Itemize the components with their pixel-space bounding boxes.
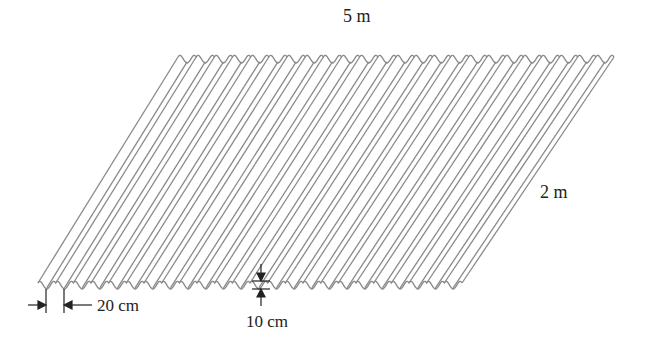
sheet-ridge-line bbox=[303, 57, 451, 283]
sheet-ridge-line bbox=[338, 57, 487, 283]
corrugated-sheet bbox=[38, 55, 614, 289]
sheet-ridge-line bbox=[65, 62, 206, 288]
sheet-ridge-line bbox=[418, 62, 569, 288]
sheet-ridge-line bbox=[427, 57, 578, 283]
sheet-ridge-line bbox=[82, 62, 223, 288]
pitch-arrow-left-head bbox=[38, 301, 46, 309]
sheet-ridge-line bbox=[312, 62, 460, 288]
sheet-ridge-line bbox=[118, 62, 260, 288]
sheet-ridge-line bbox=[232, 57, 378, 283]
sheet-ridge-line bbox=[330, 62, 478, 288]
sheet-ridge-line bbox=[383, 62, 533, 288]
sheet-ridge-line bbox=[215, 57, 360, 283]
sheet-ridge-line bbox=[285, 57, 432, 283]
sheet-ridge-line bbox=[73, 57, 214, 283]
sheet-ridge-line bbox=[224, 62, 369, 288]
sheet-ridge-line bbox=[250, 57, 396, 283]
sheet-ridge-line bbox=[171, 62, 315, 288]
sheet-ridge-line bbox=[268, 57, 415, 283]
sheet-ridge-line bbox=[374, 57, 524, 283]
sheet-ridge-line bbox=[100, 62, 242, 288]
depth-arrow-bottom-head bbox=[257, 289, 265, 297]
sheet-ridge-line bbox=[135, 62, 278, 288]
pitch-label: 20 cm bbox=[97, 296, 139, 316]
sheet-ridge-line bbox=[109, 57, 251, 283]
sheet-ridge-line bbox=[321, 57, 469, 283]
sheet-ridge-line bbox=[126, 57, 269, 283]
sheet-ridge-line bbox=[153, 62, 296, 288]
sheet-ridge-line bbox=[56, 57, 197, 283]
sheet-ridge-line bbox=[356, 57, 505, 283]
sheet-ridge-line bbox=[38, 57, 178, 283]
sheet-ridge-line bbox=[188, 62, 332, 288]
depth-label: 10 cm bbox=[246, 312, 288, 332]
sheet-top-edge bbox=[178, 55, 614, 63]
pitch-arrow-right-head bbox=[64, 301, 72, 309]
sheet-ridge-line bbox=[91, 57, 233, 283]
sheet-ridge-line bbox=[206, 62, 351, 288]
sheet-ridge-line bbox=[365, 62, 514, 288]
length-label: 5 m bbox=[343, 6, 371, 27]
sheet-ridge-line bbox=[47, 62, 187, 288]
sheet-ridge-line bbox=[436, 62, 587, 288]
slant-width-label: 2 m bbox=[540, 182, 568, 203]
sheet-ridge-line bbox=[347, 62, 496, 288]
